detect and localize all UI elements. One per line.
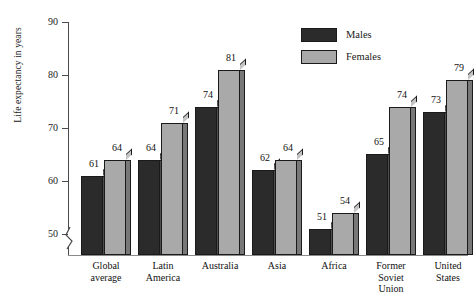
bar-side-face <box>297 160 302 255</box>
bar-face <box>309 229 331 255</box>
bar-females <box>161 123 183 255</box>
bar-value-label: 64 <box>100 143 134 153</box>
x-axis-label: UnitedStates <box>410 260 474 283</box>
bar-face <box>252 170 274 255</box>
y-axis-tick-label: 50 <box>28 229 58 239</box>
legend-label: Males <box>346 29 372 41</box>
y-axis-tick-label: 90 <box>28 17 58 27</box>
x-axis-label-line: States <box>410 272 474 284</box>
legend-swatch <box>301 50 337 64</box>
bar-side-face <box>240 70 245 255</box>
bar-males <box>195 107 217 255</box>
bar-group: 6164 <box>81 22 132 255</box>
x-axis-line <box>68 255 468 256</box>
y-axis-tick-80: 80 <box>0 70 68 80</box>
bar-face <box>104 160 126 255</box>
y-axis-tick-70: 70 <box>0 123 68 133</box>
bar-face <box>446 80 468 255</box>
bar-females <box>389 107 411 255</box>
bar-value-label: 64 <box>271 143 305 153</box>
bar-females <box>104 160 126 255</box>
bar-females <box>275 160 297 255</box>
bar-chart: Life expectancy in years 9080706050 6164… <box>0 0 474 305</box>
bar-face <box>423 112 445 255</box>
y-axis-tick-label: 60 <box>28 176 58 186</box>
bar-males <box>309 229 331 255</box>
legend-swatch <box>301 28 337 42</box>
bar-value-label: 81 <box>214 53 248 63</box>
bar-group: 7379 <box>423 22 474 255</box>
bar-females <box>218 70 240 255</box>
bar-value-label: 79 <box>442 63 474 73</box>
x-axis-label-line: United <box>410 260 474 272</box>
bar-males <box>138 160 160 255</box>
bar-side-face <box>126 160 131 255</box>
y-axis-tick-label: 70 <box>28 123 58 133</box>
y-axis-tick-90: 90 <box>0 17 68 27</box>
bar-side-face <box>468 80 473 255</box>
x-axis-label-line: Union <box>353 283 429 295</box>
bar-value-label: 74 <box>385 90 419 100</box>
bar-side-face <box>354 213 359 255</box>
bar-face <box>138 160 160 255</box>
bar-value-label: 71 <box>157 106 191 116</box>
bar-males <box>81 176 103 255</box>
bar-face <box>332 213 354 255</box>
bar-face <box>218 70 240 255</box>
bar-value-label: 54 <box>328 196 362 206</box>
bar-face <box>275 160 297 255</box>
bar-males <box>423 112 445 255</box>
bar-side-face <box>183 123 188 255</box>
y-axis-tick-label: 80 <box>28 70 58 80</box>
bar-face <box>195 107 217 255</box>
bar-face <box>389 107 411 255</box>
bar-females <box>446 80 468 255</box>
bar-face <box>366 154 388 255</box>
bar-group: 6471 <box>138 22 189 255</box>
bar-group: 7481 <box>195 22 246 255</box>
bar-males <box>366 154 388 255</box>
legend-label: Females <box>346 51 381 63</box>
bar-group: 6264 <box>252 22 303 255</box>
bar-side-face <box>411 107 416 255</box>
bar-females <box>332 213 354 255</box>
y-axis-tick-60: 60 <box>0 176 68 186</box>
plot-area: 6164647174816264515465747379 <box>69 22 468 255</box>
bar-males <box>252 170 274 255</box>
bar-face <box>81 176 103 255</box>
x-axis-label-line: America <box>125 272 201 284</box>
bar-face <box>161 123 183 255</box>
